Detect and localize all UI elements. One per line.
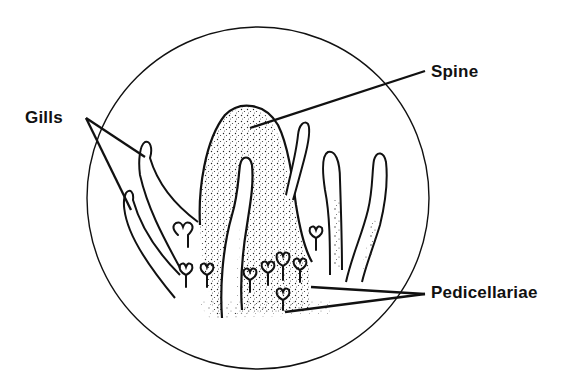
sea-urchin-diagram — [0, 0, 578, 373]
gills-label: Gills — [25, 109, 63, 126]
pedicellariae-leader-1 — [311, 287, 425, 294]
spine-shape — [200, 108, 310, 315]
spine-leader — [250, 71, 425, 128]
spine-label: Spine — [431, 63, 478, 80]
pedicellariae-label: Pedicellariae — [431, 284, 538, 301]
